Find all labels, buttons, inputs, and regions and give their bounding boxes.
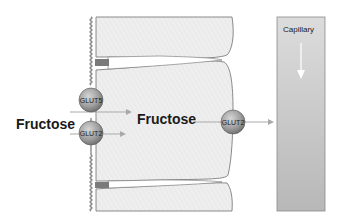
capillary [277,17,325,211]
transporter-glut2-apical: GLUT2 [79,121,103,145]
capillary-label: Capillary [283,25,314,34]
enterocyte-top [96,17,233,58]
transporter-glut2-basolateral: GLUT2 [221,110,245,134]
transporter-glut5-apical: GLUT5 [79,88,103,112]
microvilli-brush-border [90,17,92,211]
fructose-lumen-label: Fructose [16,116,75,132]
fructose-cell-label: Fructose [137,111,196,127]
fructose-absorption-diagram: GLUT5 GLUT2 GLUT2 Fructose Fructose Capi… [0,0,343,223]
svg-text:GLUT2: GLUT2 [222,119,245,126]
svg-text:GLUT2: GLUT2 [80,130,103,137]
svg-text:GLUT5: GLUT5 [80,97,103,104]
